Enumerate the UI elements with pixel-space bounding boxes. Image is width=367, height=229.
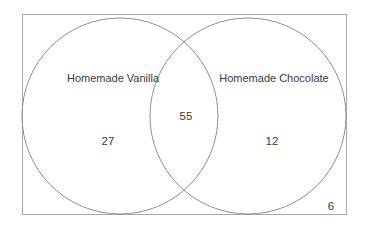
venn-diagram-canvas: Homemade Vanilla Homemade Chocolate 27 5… <box>0 0 367 229</box>
count-intersection: 55 <box>180 110 193 122</box>
count-right-only: 12 <box>266 135 279 147</box>
set-label-left: Homemade Vanilla <box>67 72 160 84</box>
set-label-right: Homemade Chocolate <box>219 72 328 84</box>
count-left-only: 27 <box>102 135 115 147</box>
venn-diagram-svg: Homemade Vanilla Homemade Chocolate 27 5… <box>0 0 367 229</box>
count-outside-universe: 6 <box>328 200 334 212</box>
